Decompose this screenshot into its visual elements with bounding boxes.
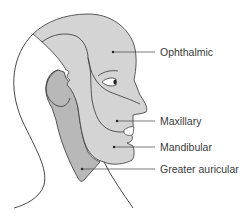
label-mandibular: Mandibular	[160, 142, 212, 153]
dot-ophthalmic	[112, 51, 114, 53]
innervation-diagram	[0, 0, 251, 221]
head-back-outline	[14, 34, 45, 208]
label-ophthalmic: Ophthalmic	[160, 47, 213, 58]
dot-mandibular	[113, 146, 115, 148]
pupil	[113, 79, 116, 84]
dot-greater-auricular	[81, 168, 83, 170]
label-greater-auricular: Greater auricular	[160, 164, 239, 175]
dot-maxillary	[116, 120, 118, 122]
label-maxillary: Maxillary	[160, 116, 201, 127]
